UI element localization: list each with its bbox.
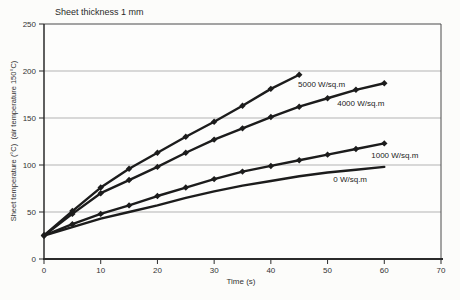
plot-background (44, 24, 441, 259)
x-tick-label: 50 (323, 266, 332, 275)
series-label: 1000 W/sq.m (371, 151, 418, 160)
chart-figure: Sheet thickness 1 mm Sheet temperature (… (0, 0, 460, 300)
series-label: 5000 W/sq.m (298, 80, 345, 89)
y-tick-label: 50 (27, 208, 36, 217)
plot-area: 0102030405060700501001502002505000 W/sq.… (0, 0, 460, 300)
y-tick-label: 250 (23, 20, 37, 29)
series-label: 0 W/sq.m (333, 175, 367, 184)
series-label: 4000 W/sq.m (337, 99, 384, 108)
x-tick-label: 30 (210, 266, 219, 275)
x-tick-label: 0 (42, 266, 47, 275)
y-tick-label: 150 (23, 114, 37, 123)
x-tick-label: 70 (437, 266, 446, 275)
y-tick-label: 100 (23, 161, 37, 170)
x-tick-label: 10 (96, 266, 105, 275)
y-tick-label: 200 (23, 67, 37, 76)
y-tick-label: 0 (32, 255, 37, 264)
x-tick-label: 40 (266, 266, 275, 275)
x-axis-title: Time (s) (226, 277, 255, 286)
x-tick-label: 20 (153, 266, 162, 275)
x-tick-label: 60 (380, 266, 389, 275)
